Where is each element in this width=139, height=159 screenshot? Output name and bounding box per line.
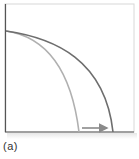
ppf-diagram-panel: (a) bbox=[0, 0, 139, 159]
ppf-diagram bbox=[0, 0, 139, 159]
diagram-frame bbox=[5, 4, 134, 132]
panel-label: (a) bbox=[3, 140, 18, 152]
frame-shadow bbox=[7, 133, 137, 139]
